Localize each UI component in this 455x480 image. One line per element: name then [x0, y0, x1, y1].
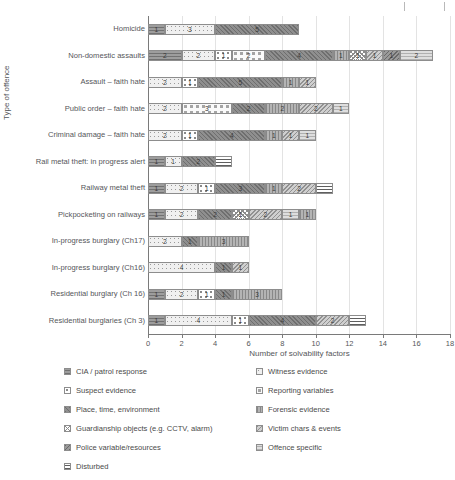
bar-segment-label: 3	[222, 238, 226, 245]
bar-segment-label: 1	[289, 132, 293, 139]
y-axis-category-label: In-progress burglary (Ch16)	[0, 263, 145, 272]
legend-label: Police variable/resources	[76, 443, 161, 452]
bar-segment-label: 1	[289, 79, 293, 86]
legend-item[interactable]: Place, time, environment	[64, 400, 264, 419]
bar-row: 14142	[148, 315, 450, 326]
bar-segment: 2	[165, 183, 199, 194]
gridline	[282, 16, 283, 334]
bar-segment: 1	[148, 24, 165, 35]
bar-row: 214111	[148, 130, 450, 141]
legend-label: Disturbed	[76, 462, 109, 471]
bar-segment: 2	[182, 50, 216, 61]
bar-segment: 2	[282, 183, 316, 194]
gridline	[182, 16, 183, 334]
bar-segment-label: 1	[188, 79, 192, 86]
bar-segment: 2	[299, 103, 333, 114]
bar-segment: 1	[282, 209, 299, 220]
bar-segment: 2	[148, 77, 182, 88]
bar-segment: 1	[148, 209, 165, 220]
bar-segment-label: 1	[155, 317, 159, 324]
legend-item[interactable]: Reporting variables	[256, 381, 446, 400]
corner-mark-top-right	[444, 2, 445, 11]
bar-segment: 5	[215, 24, 299, 35]
legend-swatch-icon	[64, 425, 71, 432]
bar-segment-label: 1	[306, 132, 310, 139]
bar-segment: 2	[148, 236, 182, 247]
bar-segment-label: 1	[289, 211, 293, 218]
x-tick-label: 16	[412, 339, 420, 348]
legend-label: Suspect evidence	[76, 386, 136, 395]
bar-segment: 2	[165, 289, 199, 300]
bar-segment-label: 2	[196, 158, 200, 165]
bar-segment-label: 1	[306, 211, 310, 218]
legend-swatch-icon	[256, 387, 263, 394]
legend-label: CIA / patrol response	[76, 367, 147, 376]
legend-item[interactable]: CIA / patrol response	[64, 362, 264, 381]
x-tick-label: 12	[345, 339, 353, 348]
legend-item[interactable]: Suspect evidence	[64, 381, 264, 400]
legend-swatch-icon	[64, 406, 71, 413]
legend-item[interactable]: Police variable/resources	[64, 438, 264, 457]
y-axis-category-label: Non-domestic assaults	[0, 51, 145, 60]
bar-row: 2212411112	[148, 50, 450, 61]
bar-segment-label: 3	[238, 185, 242, 192]
y-axis-category-label: Pickpocketing on railways	[0, 210, 145, 219]
bar-segment: 1	[182, 130, 199, 141]
x-tick-mark	[316, 334, 317, 338]
bar-segment: 1	[182, 236, 199, 247]
gridline	[450, 16, 451, 334]
bar-segment-label: 2	[280, 105, 284, 112]
gridline	[349, 16, 350, 334]
bar-segment: 2	[400, 50, 434, 61]
bar-segment-label: 1	[272, 185, 276, 192]
x-tick-label: 6	[247, 339, 251, 348]
bar-segment: 2	[232, 50, 266, 61]
legend-item[interactable]: Disturbed	[64, 457, 264, 476]
bar-segment-label: 1	[205, 291, 209, 298]
bar-segment-label: 1	[155, 291, 159, 298]
legend-swatch-icon	[64, 444, 71, 451]
bar-row: 1221211	[148, 209, 450, 220]
bar-segment: 3	[215, 183, 265, 194]
legend-swatch-icon	[256, 368, 263, 375]
bar-segment-label: 1	[356, 52, 360, 59]
y-axis-category-label: Assault – faith hate	[0, 77, 145, 86]
x-tick-mark	[249, 334, 250, 338]
bar-segment: 1	[232, 315, 249, 326]
bar-segment: 1	[215, 289, 232, 300]
bar-segment	[316, 183, 333, 194]
gridline	[383, 16, 384, 334]
bar-segment-label: 2	[180, 185, 184, 192]
solvability-factors-chart: Type of offence 024681012141618 Homicide…	[0, 0, 455, 480]
bar-segment: 4	[198, 130, 265, 141]
bar-segment: 3	[232, 289, 282, 300]
bar-segment: 2	[182, 156, 216, 167]
legend-swatch-icon	[64, 463, 71, 470]
bar-segment-label: 2	[297, 185, 301, 192]
bar-segment-label: 2	[180, 291, 184, 298]
bar-segment: 3	[198, 236, 248, 247]
bar-segment: 1	[282, 77, 299, 88]
legend-item[interactable]: Offence specific	[256, 438, 446, 457]
bar-segment: 1	[165, 156, 182, 167]
bar-segment-label: 3	[205, 105, 209, 112]
bar-segment-label: 2	[247, 52, 251, 59]
bar-segment-label: 1	[222, 264, 226, 271]
bar-segment: 1	[148, 156, 165, 167]
bar-row: 121312	[148, 183, 450, 194]
bar-segment-label: 1	[222, 52, 226, 59]
bar-segment-label: 4	[280, 317, 284, 324]
x-tick-mark	[349, 334, 350, 338]
x-tick-label: 18	[446, 339, 454, 348]
bar-segment-label: 3	[255, 291, 259, 298]
legend-item[interactable]: Forensic evidence	[256, 400, 446, 419]
x-tick-label: 14	[379, 339, 387, 348]
legend-item[interactable]: Witness evidence	[256, 362, 446, 381]
legend-label: Reporting variables	[268, 386, 333, 395]
bar-segment: 1	[182, 77, 199, 88]
legend-item[interactable]: Victim chars & events	[256, 419, 446, 438]
bar-segment-label: 1	[188, 132, 192, 139]
bar-segment: 1	[299, 130, 316, 141]
x-tick-label: 0	[146, 339, 150, 348]
legend-item[interactable]: Guardianship objects (e.g. CCTV, alarm)	[64, 419, 264, 438]
